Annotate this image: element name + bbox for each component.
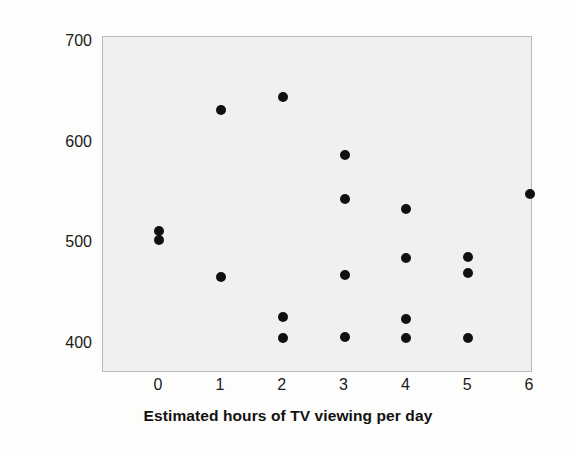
data-point (525, 189, 535, 199)
x-axis-tick-labels: 0123456 (0, 376, 576, 402)
data-point (401, 204, 411, 214)
data-point (278, 92, 288, 102)
data-point (401, 314, 411, 324)
x-tick-label-3: 3 (339, 376, 348, 394)
y-tick-label-700: 700 (65, 32, 92, 50)
x-tick-label-2: 2 (277, 376, 286, 394)
data-point (278, 333, 288, 343)
data-point (401, 333, 411, 343)
data-point (401, 253, 411, 263)
data-point (463, 333, 473, 343)
data-point (463, 268, 473, 278)
data-point (463, 252, 473, 262)
data-point (340, 150, 350, 160)
data-point (278, 312, 288, 322)
y-tick-label-600: 600 (65, 133, 92, 151)
data-point (340, 194, 350, 204)
data-point (216, 105, 226, 115)
plot-area (102, 36, 532, 372)
x-tick-label-1: 1 (215, 376, 224, 394)
x-tick-label-6: 6 (525, 376, 534, 394)
y-tick-label-400: 400 (65, 334, 92, 352)
data-point (216, 272, 226, 282)
y-tick-label-500: 500 (65, 233, 92, 251)
data-point (340, 270, 350, 280)
data-point (154, 235, 164, 245)
x-tick-label-4: 4 (401, 376, 410, 394)
scatter-plot-figure: SAT score 700600500400 0123456 Estimated… (0, 0, 576, 449)
x-tick-label-0: 0 (154, 376, 163, 394)
x-axis-title: Estimated hours of TV viewing per day (0, 407, 576, 425)
data-point (340, 332, 350, 342)
x-tick-label-5: 5 (463, 376, 472, 394)
